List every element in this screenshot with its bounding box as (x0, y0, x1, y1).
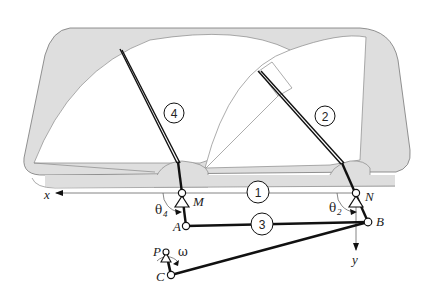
theta4-label: θ (155, 203, 162, 217)
omega-label: ω (178, 245, 188, 259)
omega-arrow (173, 260, 179, 266)
y-axis-arrow (353, 243, 359, 251)
point-label-a: A (172, 219, 181, 234)
y-axis-label: y (350, 252, 358, 267)
point-label-n: N (364, 189, 375, 204)
joint-a (182, 222, 189, 229)
link-label-1: 1 (255, 186, 262, 200)
frame-base-band (45, 175, 395, 187)
link-3-coupler (186, 222, 368, 226)
theta2-subscript: 2 (337, 207, 342, 217)
theta2-label: θ (329, 201, 336, 215)
joint-c (167, 271, 174, 278)
link-label-2: 2 (322, 110, 329, 124)
link-label-4: 4 (171, 107, 178, 121)
point-label-p: P (152, 244, 161, 259)
x-axis-arrow (55, 190, 63, 196)
x-axis-label: x (43, 187, 50, 202)
ground-support-m (175, 196, 189, 207)
point-label-b: B (376, 214, 384, 229)
wiper-mechanism-diagram: x y 4 2 1 3 M N A B C P θ 4 (0, 0, 428, 297)
joint-p (163, 249, 169, 255)
joint-n (352, 189, 359, 196)
point-label-m: M (192, 194, 205, 209)
link-label-3: 3 (259, 218, 266, 232)
ground-support-n (349, 196, 363, 207)
point-label-c: C (156, 269, 165, 284)
theta4-subscript: 4 (163, 209, 168, 219)
theta4-arrow (175, 209, 182, 215)
joint-m (178, 189, 185, 196)
joint-b (364, 218, 372, 226)
